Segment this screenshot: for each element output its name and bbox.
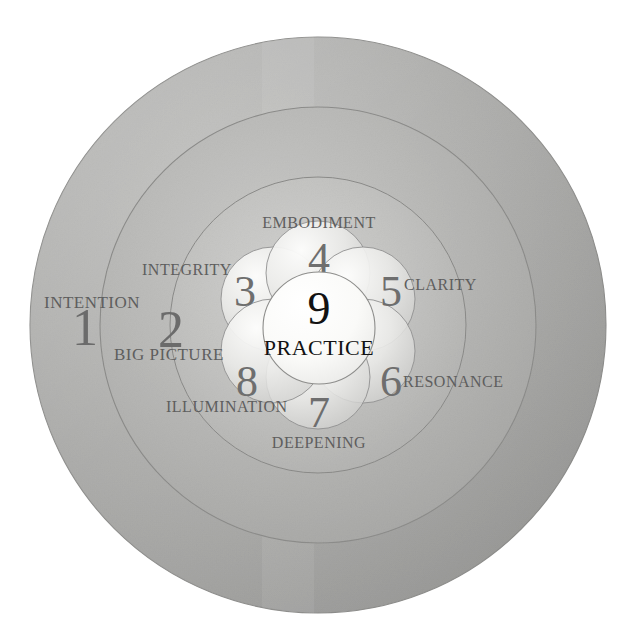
label-3-integrity: INTEGRITY	[142, 261, 232, 278]
center-hub-practice[interactable]: 9 PRACTICE	[263, 272, 375, 384]
label-1-intention: INTENTION	[44, 293, 140, 312]
numeral-3: 3	[234, 267, 256, 316]
diagram-canvas: 3 4 5 6 7 8 9 PRACTICE 1 2 INTENTION BIG…	[0, 0, 635, 641]
numeral-6: 6	[380, 357, 402, 406]
label-5-clarity: CLARITY	[404, 276, 477, 293]
label-7-deepening: DEEPENING	[272, 434, 366, 451]
label-2-big-picture: BIG PICTURE	[114, 345, 224, 364]
practice-mandala-svg: 3 4 5 6 7 8 9 PRACTICE 1 2 INTENTION BIG…	[0, 0, 635, 641]
label-6-resonance: RESONANCE	[403, 373, 504, 390]
center-numeral-9: 9	[308, 283, 331, 334]
label-4-embodiment: EMBODIMENT	[262, 214, 375, 231]
label-8-illumination: ILLUMINATION	[166, 398, 288, 415]
center-label-practice: PRACTICE	[264, 335, 374, 360]
numeral-5: 5	[380, 267, 402, 316]
numeral-7: 7	[308, 388, 330, 437]
